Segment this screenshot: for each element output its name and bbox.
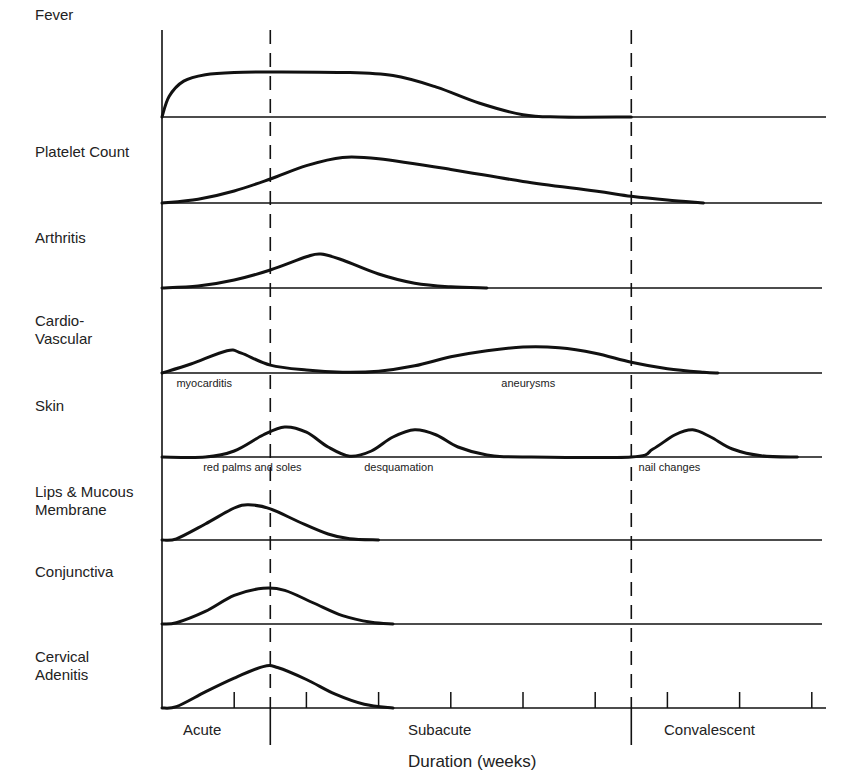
row-label: Cervical Adenitis: [35, 648, 89, 684]
row-curve: [162, 666, 393, 709]
chart-row: [162, 157, 822, 203]
chart-row: [162, 588, 822, 624]
row-annotation: myocarditis: [176, 377, 232, 389]
chart-row: [162, 427, 822, 458]
phase-label-acute: Acute: [183, 721, 221, 738]
row-label: Conjunctiva: [35, 563, 113, 581]
chart-row: [162, 505, 822, 541]
clinical-course-chart: [0, 0, 841, 775]
row-curve: [162, 427, 797, 458]
row-curve: [162, 254, 487, 288]
x-axis-ticks: [234, 692, 812, 708]
row-curve: [162, 72, 631, 117]
x-axis-label: Duration (weeks): [408, 752, 537, 772]
row-curve: [162, 588, 393, 624]
row-label: Lips & Mucous Membrane: [35, 483, 133, 519]
row-label: Cardio- Vascular: [35, 312, 92, 348]
phase-label-convalescent: Convalescent: [664, 721, 755, 738]
row-annotation: desquamation: [364, 461, 433, 473]
phase-dividers: [270, 30, 631, 745]
row-annotation: red palms and soles: [203, 461, 301, 473]
row-label: Arthritis: [35, 229, 86, 247]
row-curve: [162, 157, 704, 203]
chart-row: [162, 666, 826, 709]
row-label: Fever: [35, 6, 73, 24]
chart-row: [162, 347, 822, 373]
row-annotation: aneurysms: [501, 377, 555, 389]
rows-layer: [162, 72, 826, 708]
chart-row: [162, 72, 826, 117]
chart-row: [162, 254, 822, 288]
row-label: Platelet Count: [35, 143, 129, 161]
row-curve: [162, 347, 718, 373]
row-label: Skin: [35, 397, 64, 415]
row-annotation: nail changes: [639, 461, 701, 473]
phase-label-subacute: Subacute: [408, 721, 471, 738]
